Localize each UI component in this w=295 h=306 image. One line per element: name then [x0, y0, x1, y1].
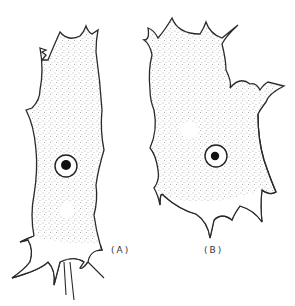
- cell-b: [144, 18, 284, 238]
- cell-a-nucleus: [55, 155, 77, 177]
- cell-b-nucleus: [205, 145, 227, 167]
- cell-a-vacuole: [60, 202, 74, 218]
- panel-label-a: (A): [111, 245, 130, 255]
- cell-b-vacuole: [180, 121, 198, 139]
- panel-label-b: (B): [204, 245, 223, 255]
- cell-a: [12, 26, 104, 300]
- cell-figure: [0, 0, 295, 306]
